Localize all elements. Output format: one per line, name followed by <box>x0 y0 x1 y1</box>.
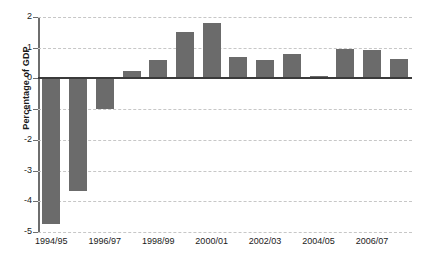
y-tick-mark <box>33 171 38 172</box>
bar <box>42 78 60 224</box>
bar <box>176 32 194 78</box>
y-tick-label: -5 <box>12 226 32 237</box>
gridline <box>38 201 412 202</box>
bar <box>69 78 87 190</box>
gridline <box>38 232 412 233</box>
x-tick-label: 1996/97 <box>89 236 122 246</box>
bar <box>256 60 274 78</box>
x-tick-label: 2004/05 <box>302 236 335 246</box>
gridline <box>38 17 412 18</box>
bar <box>283 54 301 79</box>
gridline <box>38 48 412 49</box>
x-tick-label: 2006/07 <box>356 236 389 246</box>
gridline <box>38 109 412 110</box>
y-tick-label: 1 <box>12 42 32 53</box>
y-tick-label: -4 <box>12 195 32 206</box>
y-tick-mark <box>33 201 38 202</box>
y-tick-mark <box>33 140 38 141</box>
x-tick-label: 1994/95 <box>35 236 68 246</box>
y-tick-label: 0 <box>12 72 32 83</box>
y-tick-mark <box>33 48 38 49</box>
y-tick-mark <box>33 109 38 110</box>
y-tick-mark <box>33 17 38 18</box>
y-tick-label: -2 <box>12 134 32 145</box>
y-tick-mark <box>33 232 38 233</box>
y-tick-label: -1 <box>12 103 32 114</box>
x-tick-label: 1998/99 <box>142 236 175 246</box>
bar <box>363 50 381 79</box>
bar-chart: Percentage of GDP 210-1-2-3-4-5 1994/951… <box>0 0 422 267</box>
plot-area: 210-1-2-3-4-5 <box>38 17 412 232</box>
gridline <box>38 171 412 172</box>
zero-baseline <box>38 77 412 79</box>
y-tick-label: 2 <box>12 11 32 22</box>
bar <box>336 49 354 78</box>
x-tick-label: 2000/01 <box>195 236 228 246</box>
y-tick-label: -3 <box>12 165 32 176</box>
bar <box>390 59 408 78</box>
bar <box>203 23 221 78</box>
x-tick-label: 2002/03 <box>249 236 282 246</box>
bar <box>229 57 247 79</box>
gridline <box>38 140 412 141</box>
bar <box>149 60 167 78</box>
bar <box>96 78 114 109</box>
